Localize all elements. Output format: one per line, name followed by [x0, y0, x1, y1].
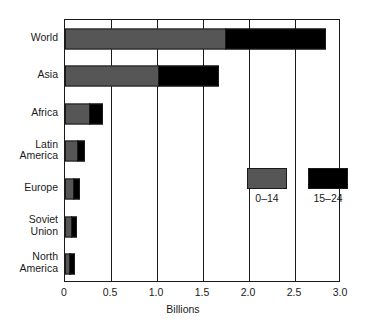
y-axis-label-text: Soviet Union	[29, 214, 58, 238]
bar-segment-young	[65, 28, 226, 49]
y-axis-label-africa: Africa	[0, 94, 58, 132]
legend-label-young: 0–14	[247, 192, 287, 204]
y-axis-label-europe: Europe	[0, 169, 58, 207]
x-tick-0.5: 0.5	[90, 286, 130, 298]
x-tick-2.5: 2.5	[274, 286, 314, 298]
x-tick-3.0: 3.0	[320, 286, 360, 298]
y-axis-label-north-america: North America	[0, 244, 58, 282]
x-axis-title: Billions	[0, 303, 366, 315]
bar-row	[65, 245, 339, 283]
y-axis-label-text: Africa	[31, 107, 58, 119]
bar-segment-teen	[77, 141, 85, 162]
bar-segment-young	[65, 66, 159, 87]
bar-segment-teen	[73, 179, 80, 200]
legend-swatch-teen-icon	[308, 168, 348, 189]
y-axis-label-asia: Asia	[0, 57, 58, 95]
y-axis-label-latin-america: Latin America	[0, 132, 58, 170]
y-axis-label-text: Latin America	[19, 139, 58, 163]
y-axis-label-text: Asia	[38, 69, 58, 81]
bar-chart: WorldAsiaAfricaLatin AmericaEuropeSoviet…	[0, 0, 366, 327]
bar-row	[65, 20, 339, 58]
x-tick-1.5: 1.5	[182, 286, 222, 298]
plot-area	[64, 19, 340, 282]
chart-legend: 0–14 15–24	[247, 168, 348, 204]
y-axis-label-soviet-union: Soviet Union	[0, 207, 58, 245]
bar-row	[65, 208, 339, 246]
bar-segment-young	[65, 103, 90, 124]
bar-row	[65, 133, 339, 171]
legend-swatch-young-icon	[247, 168, 287, 189]
x-tick-1.0: 1.0	[136, 286, 176, 298]
legend-entry-young: 0–14	[247, 168, 287, 204]
bar-segment-teen	[89, 103, 103, 124]
legend-entry-teen: 15–24	[308, 168, 348, 204]
y-axis-label-text: World	[31, 32, 58, 44]
x-tick-2.0: 2.0	[228, 286, 268, 298]
bar-segment-teen	[71, 216, 77, 237]
y-axis-label-text: North America	[19, 251, 58, 275]
bar-segment-teen	[225, 28, 326, 49]
bar-segment-teen	[158, 66, 219, 87]
y-axis-label-world: World	[0, 19, 58, 57]
y-axis-label-text: Europe	[24, 182, 58, 194]
bar-row	[65, 58, 339, 96]
x-tick-0: 0	[44, 286, 84, 298]
bar-row	[65, 95, 339, 133]
legend-label-teen: 15–24	[308, 192, 348, 204]
bar-segment-teen	[69, 254, 75, 275]
